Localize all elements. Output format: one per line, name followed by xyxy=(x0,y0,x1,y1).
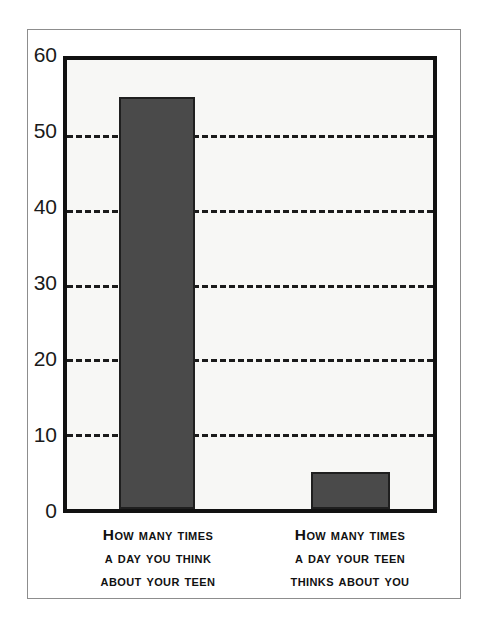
x-axis-label-category-2: How many times a day your teen thinks ab… xyxy=(255,524,445,593)
x-axis-label-category-1-line-3: about your teen xyxy=(63,570,253,593)
x-axis-label-category-2-line-1: How many times xyxy=(255,524,445,547)
x-axis-label-category-2-line-2: a day your teen xyxy=(255,547,445,570)
x-axis-label-category-2-line-3: thinks about you xyxy=(255,570,445,593)
chart-canvas: 60 50 40 30 20 10 0 How many times a da xyxy=(0,0,489,630)
x-axis-label-category-1-line-1: How many times xyxy=(63,524,253,547)
y-axis-tick-40: 40 xyxy=(17,196,57,217)
y-axis-tick-50: 50 xyxy=(17,120,57,141)
x-axis-label-category-1: How many times a day you think about you… xyxy=(63,524,253,593)
bar-how-many-times-a-day-your-teen-thinks-about-you[interactable] xyxy=(311,472,390,509)
x-axis-label-category-1-line-2: a day you think xyxy=(63,547,253,570)
y-axis-tick-30: 30 xyxy=(17,272,57,293)
y-axis-tick-10: 10 xyxy=(17,424,57,445)
plot-area xyxy=(63,56,437,513)
y-axis-tick-0: 0 xyxy=(17,500,57,521)
bar-how-many-times-a-day-you-think-about-your-teen[interactable] xyxy=(119,97,195,509)
y-axis-tick-20: 20 xyxy=(17,348,57,369)
bar-chart-figure: 60 50 40 30 20 10 0 How many times a da xyxy=(0,0,489,630)
y-axis-tick-60: 60 xyxy=(17,44,57,65)
plot-inner xyxy=(67,60,433,509)
